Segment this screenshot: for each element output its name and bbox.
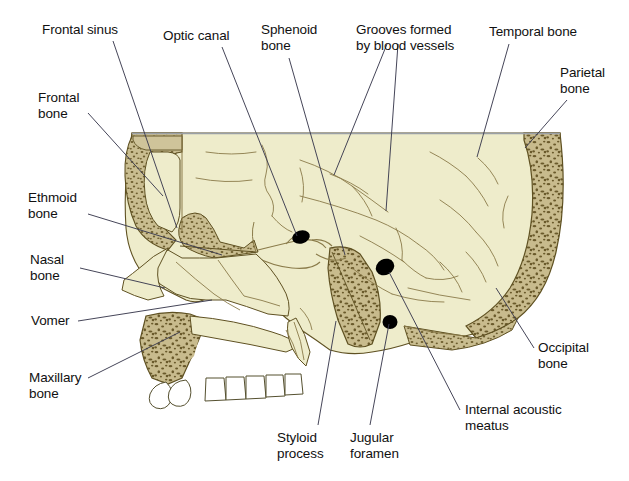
label-sphenoid-bone: Sphenoid bone	[261, 22, 317, 53]
label-frontal-bone: Frontal bone	[38, 90, 79, 121]
label-internal-acoustic-meatus: Internal acoustic meatus	[465, 402, 562, 433]
label-vomer: Vomer	[31, 313, 70, 329]
label-maxillary-bone: Maxillary bone	[29, 370, 81, 401]
label-occipital-bone: Occipital bone	[538, 340, 589, 371]
label-optic-canal: Optic canal	[163, 28, 229, 44]
label-styloid-process: Styloid process	[277, 430, 324, 461]
label-temporal-bone: Temporal bone	[489, 24, 577, 40]
label-nasal-bone: Nasal bone	[30, 252, 64, 283]
label-jugular-foramen: Jugular foramen	[350, 430, 399, 461]
label-parietal-bone: Parietal bone	[560, 65, 605, 96]
anatomy-figure: Frontal sinus Optic canal Sphenoid bone …	[0, 0, 629, 481]
label-grooves-blood-vessels: Grooves formed by blood vessels	[356, 22, 454, 53]
label-ethmoid-bone: Ethmoid bone	[28, 190, 77, 221]
label-frontal-sinus: Frontal sinus	[42, 22, 118, 38]
jugular-foramen-opening	[383, 315, 398, 329]
maxillary-bone-region	[140, 312, 300, 384]
